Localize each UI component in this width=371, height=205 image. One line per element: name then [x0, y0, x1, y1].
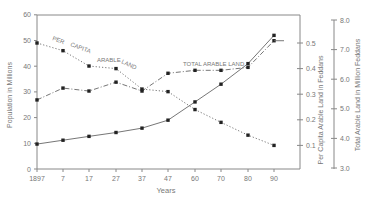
data-point: [114, 131, 117, 134]
data-point: [140, 89, 143, 92]
x-tick-label: 60: [191, 175, 199, 182]
data-point: [140, 126, 143, 129]
data-point: [219, 121, 222, 124]
x-axis: 189771727374760708090: [29, 169, 278, 182]
y-right1-tick-label: 0.4: [306, 65, 316, 72]
x-tick-label: 70: [217, 175, 225, 182]
x-tick-label: 7: [61, 175, 65, 182]
y-tick-label: 30: [23, 88, 31, 95]
y-right2-tick-label: 7.0: [340, 46, 350, 53]
y-right1-tick-label: 0.3: [306, 91, 316, 98]
x-tick-label: 37: [138, 175, 146, 182]
y-right2-tick-label: 3.0: [340, 165, 350, 172]
data-point: [272, 34, 275, 37]
series-population: [35, 34, 275, 146]
data-point: [219, 82, 222, 85]
data-point: [166, 118, 169, 121]
data-point: [61, 49, 64, 52]
y-tick-label: 0: [27, 166, 31, 173]
data-point: [35, 41, 38, 44]
y-right2-tick-label: 8.0: [340, 17, 350, 24]
data-point: [87, 64, 90, 67]
data-point: [193, 69, 196, 72]
data-point: [61, 86, 64, 89]
data-point: [219, 69, 222, 72]
left-axis: 0102030405060: [23, 11, 37, 172]
data-point: [272, 144, 275, 147]
data-point: [35, 98, 38, 101]
right-axis-1-label: Per Capita Arable Land in Feddans: [317, 55, 325, 164]
data-point: [166, 90, 169, 93]
data-point: [35, 142, 38, 145]
y-tick-label: 10: [23, 140, 31, 147]
x-tick-label: 1897: [29, 175, 45, 182]
y-right2-tick-label: 5.0: [340, 105, 350, 112]
x-tick-label: 17: [85, 175, 93, 182]
y-right2-tick-label: 4.0: [340, 135, 350, 142]
y-tick-label: 20: [23, 114, 31, 121]
y-tick-label: 40: [23, 63, 31, 70]
data-point: [114, 80, 117, 83]
data-point: [246, 66, 249, 69]
svg-text:CAPITA: CAPITA: [70, 41, 92, 54]
plot-frame: [37, 15, 334, 169]
x-tick-label: 27: [112, 175, 120, 182]
right-axis-2-label: Total Arable Land in Million Feddans: [354, 38, 361, 151]
series-total-arable-land: [35, 39, 284, 102]
data-point: [87, 89, 90, 92]
chart: 0102030405060 189771727374760708090 0.10…: [0, 0, 371, 205]
data-point: [87, 135, 90, 138]
y-tick-label: 60: [23, 11, 31, 18]
data-point: [246, 133, 249, 136]
x-tick-label: 47: [164, 175, 172, 182]
x-tick-label: 90: [270, 175, 278, 182]
svg-text:ARABLE: ARABLE: [97, 57, 121, 63]
series-per-capita-arable-land: [35, 41, 275, 147]
svg-text:PER: PER: [52, 35, 66, 45]
data-point: [193, 108, 196, 111]
x-axis-label: Years: [157, 186, 176, 195]
data-point: [114, 67, 117, 70]
data-point: [61, 139, 64, 142]
svg-text:LAND: LAND: [121, 58, 139, 70]
y-axis-label: Population in Millions: [6, 62, 14, 128]
per-capita-annotation: PER CAPITA ARABLE LAND: [52, 35, 139, 71]
y-tick-label: 50: [23, 37, 31, 44]
total-arable-annotation: TOTAL ARABLE LAND: [183, 61, 245, 67]
data-point: [166, 72, 169, 75]
data-point: [246, 62, 249, 65]
y-right2-tick-label: 6.0: [340, 76, 350, 83]
data-point: [193, 100, 196, 103]
y-right1-tick-label: 0.5: [306, 40, 316, 47]
series-layer: [35, 34, 284, 147]
y-right1-tick-label: 0.2: [306, 116, 316, 123]
y-right1-tick-label: 0.1: [306, 142, 316, 149]
x-tick-label: 80: [244, 175, 252, 182]
